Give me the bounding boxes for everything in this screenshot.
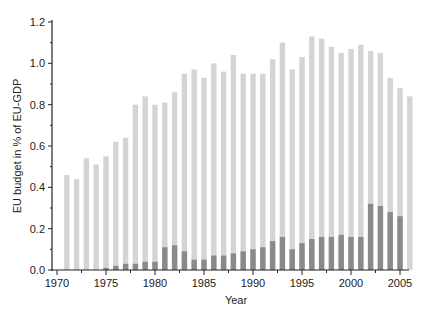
bar-light-1982 [172, 92, 177, 270]
bar-light-1988 [231, 55, 236, 270]
bar-dark-1977 [123, 264, 128, 270]
bar-dark-1991 [260, 247, 265, 270]
x-tick-label: 2000 [339, 277, 363, 289]
bar-light-1981 [162, 103, 167, 270]
bar-dark-2001 [358, 237, 363, 270]
bar-light-1974 [94, 165, 99, 270]
bar-light-1978 [133, 105, 138, 270]
bar-light-2001 [358, 45, 363, 270]
bar-light-1985 [201, 78, 206, 270]
bar-light-2006 [407, 96, 412, 270]
y-tick-label: 1.2 [30, 16, 45, 28]
bar-light-1986 [211, 63, 216, 270]
y-tick-label: 0.2 [30, 223, 45, 235]
bar-light-1993 [280, 43, 285, 270]
y-tick-label: 0.0 [30, 264, 45, 276]
bar-light-1973 [84, 158, 89, 270]
x-tick-label: 1975 [94, 277, 118, 289]
bar-dark-1984 [192, 260, 197, 270]
bar-light-1987 [221, 72, 226, 270]
bar-dark-1983 [182, 251, 187, 270]
bar-dark-2003 [378, 206, 383, 270]
bar-light-1980 [152, 105, 157, 270]
bar-dark-1978 [133, 264, 138, 270]
bar-light-1998 [329, 47, 334, 270]
bar-dark-2002 [368, 204, 373, 270]
bar-light-1990 [250, 74, 255, 270]
x-tick-label: 1990 [241, 277, 265, 289]
y-tick-label: 0.4 [30, 181, 45, 193]
y-axis-title: EU budget in % of EU-GDP [11, 79, 23, 214]
bar-light-2000 [348, 49, 353, 270]
bar-dark-1988 [231, 253, 236, 270]
bar-light-1975 [103, 156, 108, 270]
bar-light-1971 [64, 175, 69, 270]
bar-dark-1994 [290, 249, 295, 270]
y-tick-label: 1.0 [30, 57, 45, 69]
bar-dark-1976 [113, 266, 118, 270]
bar-light-1977 [123, 138, 128, 270]
bar-dark-1987 [221, 256, 226, 270]
bar-dark-1985 [201, 260, 206, 270]
bar-dark-2005 [397, 216, 402, 270]
bar-dark-1996 [309, 239, 314, 270]
bar-dark-1990 [250, 249, 255, 270]
bar-dark-1998 [329, 237, 334, 270]
bar-dark-1982 [172, 245, 177, 270]
bar-dark-1980 [152, 262, 157, 270]
y-tick-label: 0.6 [30, 140, 45, 152]
x-tick-label: 1985 [192, 277, 216, 289]
bar-light-1991 [260, 74, 265, 270]
bar-chart: 0.00.20.40.60.81.01.21970197519801985199… [0, 0, 433, 321]
x-tick-label: 1995 [290, 277, 314, 289]
bar-light-1996 [309, 36, 314, 270]
bar-light-1976 [113, 142, 118, 270]
bar-dark-1981 [162, 247, 167, 270]
bar-dark-1979 [143, 262, 148, 270]
bar-light-1979 [143, 96, 148, 270]
bar-light-1997 [319, 39, 324, 270]
bar-light-1972 [74, 179, 79, 270]
bar-light-1995 [299, 57, 304, 270]
bar-light-1992 [270, 59, 275, 270]
x-axis-title: Year [225, 294, 248, 306]
bar-light-1994 [290, 70, 295, 270]
bar-dark-1992 [270, 241, 275, 270]
y-tick-label: 0.8 [30, 99, 45, 111]
bar-light-1983 [182, 74, 187, 270]
bar-dark-2004 [388, 212, 393, 270]
bar-dark-1995 [299, 243, 304, 270]
bar-dark-1989 [241, 251, 246, 270]
x-tick-label: 1980 [143, 277, 167, 289]
bar-dark-1999 [339, 235, 344, 270]
x-tick-label: 1970 [45, 277, 69, 289]
x-tick-label: 2005 [388, 277, 412, 289]
bar-light-1984 [192, 70, 197, 270]
bar-dark-1997 [319, 237, 324, 270]
bar-dark-1986 [211, 256, 216, 270]
bar-dark-1993 [280, 237, 285, 270]
light-bars [64, 36, 412, 270]
bar-light-1989 [241, 74, 246, 270]
bar-dark-2000 [348, 237, 353, 270]
